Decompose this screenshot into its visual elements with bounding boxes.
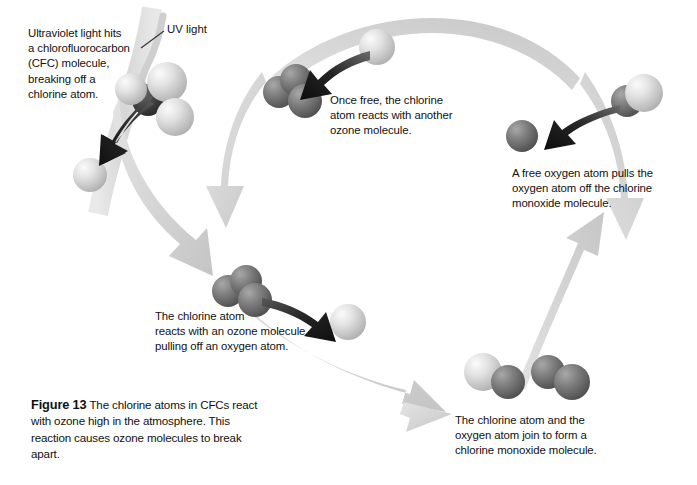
- step1-line-5: chlorine atom.: [28, 87, 178, 102]
- step4-line-2: reacts with an ozone molecule,: [155, 324, 355, 339]
- step-caption-oxygen-pulls-off: A free oxygen atom pulls the oxygen atom…: [512, 166, 692, 212]
- step4-line-3: pulling off an oxygen atom.: [155, 339, 355, 354]
- step4-line-1: The chlorine atom: [155, 309, 355, 324]
- step3-line-2: oxygen atom off the chlorine: [512, 181, 692, 196]
- step1-line-3: (CFC) molecule,: [28, 56, 178, 71]
- reaction-arrow-oxygen-pull: [544, 105, 620, 150]
- reaction-arrow-chlorine-breakoff: [99, 96, 154, 166]
- figure-caption: Figure 13 The chlorine atoms in CFCs rea…: [31, 397, 263, 463]
- step1-line-4: breaking off a: [28, 72, 178, 87]
- step2-line-3: ozone molecule.: [330, 123, 510, 138]
- step-caption-chlorine-reacts-ozone: Once free, the chlorine atom reacts with…: [330, 93, 510, 139]
- step3-line-1: A free oxygen atom pulls the: [512, 166, 692, 181]
- step1-line-1: Ultraviolet light hits: [28, 26, 178, 41]
- step5-line-3: chlorine monoxide molecule.: [455, 443, 665, 458]
- step1-line-2: a chlorofluorocarbon: [28, 41, 178, 56]
- step-caption-chlorine-pulls-oxygen: The chlorine atom reacts with an ozone m…: [155, 309, 355, 355]
- step2-line-2: atom reacts with another: [330, 108, 510, 123]
- step-caption-clo-forms: The chlorine atom and the oxygen atom jo…: [455, 413, 665, 459]
- step2-line-1: Once free, the chlorine: [330, 93, 510, 108]
- step3-line-3: monoxide molecule.: [512, 196, 692, 211]
- step5-line-2: oxygen atom join to form a: [455, 428, 665, 443]
- figure-number: Figure 13: [31, 397, 87, 412]
- step-caption-uv-hits-cfc: Ultraviolet light hits a chlorofluorocar…: [28, 26, 178, 102]
- ozone-depletion-cycle-figure: UV light Ultraviolet light hits a chloro…: [0, 0, 697, 485]
- step5-line-1: The chlorine atom and the: [455, 413, 665, 428]
